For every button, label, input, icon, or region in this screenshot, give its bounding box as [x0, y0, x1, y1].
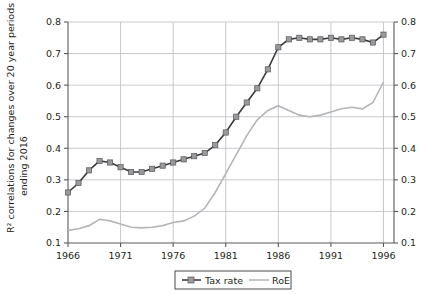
y-tick-label-left: 0.8 — [46, 16, 61, 27]
data-point-marker — [150, 166, 155, 171]
y-tick-label-left: 0.4 — [46, 143, 61, 154]
data-point-marker — [223, 130, 228, 135]
data-point-marker — [202, 150, 207, 155]
legend-marker-tax-rate — [188, 277, 194, 283]
data-point-marker — [276, 45, 281, 50]
y-tick-label-left: 0.3 — [46, 174, 61, 185]
x-tick-label: 1996 — [371, 250, 395, 261]
data-point-marker — [118, 165, 123, 170]
legend-label-roe: RoE — [272, 275, 290, 286]
chart-legend: Tax rate RoE — [175, 271, 291, 289]
y-axis-left-tickmarks — [64, 22, 68, 243]
y-tick-label-right: 0.5 — [401, 111, 416, 122]
y-axis-right-tickmarks — [394, 22, 398, 243]
data-point-marker — [328, 35, 333, 40]
y-tick-label-right: 0.6 — [401, 80, 416, 91]
y-axis-title-line1: R² correlations for changes over 20 year… — [5, 3, 16, 233]
data-point-marker — [181, 157, 186, 162]
data-point-marker — [234, 114, 239, 119]
y-tick-label-left: 0.6 — [46, 80, 61, 91]
y-tick-label-right: 0.3 — [401, 174, 416, 185]
data-point-marker — [360, 37, 365, 42]
data-point-marker — [97, 158, 102, 163]
y-tick-label-left: 0.5 — [46, 111, 61, 122]
y-tick-label-left: 0.2 — [46, 206, 61, 217]
data-point-marker — [192, 154, 197, 159]
data-point-marker — [318, 37, 323, 42]
x-tick-label: 1966 — [56, 250, 80, 261]
data-point-marker — [349, 35, 354, 40]
data-point-marker — [297, 35, 302, 40]
y-tick-label-left: 0.7 — [46, 48, 61, 59]
data-point-marker — [370, 40, 375, 45]
data-point-marker — [265, 67, 270, 72]
y-tick-label-left: 0.1 — [46, 237, 61, 248]
y-tick-label-right: 0.1 — [401, 237, 416, 248]
data-point-marker — [307, 37, 312, 42]
data-point-marker — [129, 169, 134, 174]
x-axis-tickmarks — [68, 243, 383, 247]
x-tick-label: 1981 — [214, 250, 238, 261]
plot-area-background — [68, 22, 394, 243]
data-point-marker — [65, 190, 70, 195]
y-tick-label-right: 0.8 — [401, 16, 416, 27]
x-tick-label: 1986 — [266, 250, 290, 261]
x-tick-label: 1971 — [108, 250, 132, 261]
y-axis-title-line2: ending 2016 — [18, 136, 29, 196]
correlation-line-chart: 0.10.20.30.40.50.60.70.8 0.10.20.30.40.5… — [0, 0, 434, 294]
data-point-marker — [171, 160, 176, 165]
y-tick-label-right: 0.7 — [401, 48, 416, 59]
x-tick-label: 1991 — [319, 250, 343, 261]
data-point-marker — [107, 160, 112, 165]
y-axis-right-labels: 0.10.20.30.40.50.60.70.8 — [401, 16, 416, 248]
data-point-marker — [160, 163, 165, 168]
chart-figure: 0.10.20.30.40.50.60.70.8 0.10.20.30.40.5… — [0, 0, 434, 294]
x-tick-label: 1976 — [161, 250, 185, 261]
data-point-marker — [213, 143, 218, 148]
legend-label-tax-rate: Tax rate — [204, 275, 243, 286]
y-axis-left-labels: 0.10.20.30.40.50.60.70.8 — [46, 16, 61, 248]
data-point-marker — [286, 37, 291, 42]
y-tick-label-right: 0.2 — [401, 206, 416, 217]
data-point-marker — [381, 32, 386, 37]
data-point-marker — [255, 86, 260, 91]
x-axis-labels: 1966197119761981198619911996 — [56, 250, 396, 261]
data-point-marker — [244, 100, 249, 105]
data-point-marker — [139, 169, 144, 174]
data-point-marker — [339, 37, 344, 42]
data-point-marker — [76, 180, 81, 185]
y-tick-label-right: 0.4 — [401, 143, 416, 154]
data-point-marker — [86, 168, 91, 173]
